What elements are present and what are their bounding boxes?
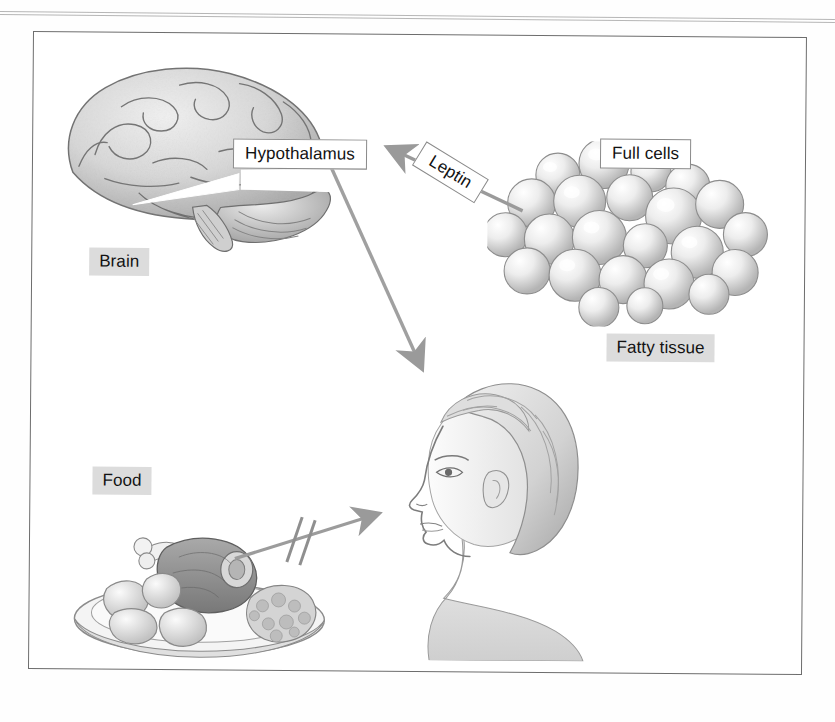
label-full-cells: Full cells [600, 138, 691, 169]
label-brain: Brain [89, 247, 149, 275]
figure-canvas: Hypothalamus Leptin Full cells Fatty tis… [29, 32, 806, 674]
label-food: Food [92, 466, 151, 494]
scanned-page-background: Hypothalamus Leptin Full cells Fatty tis… [0, 0, 835, 722]
woman-profile-illustration [369, 360, 621, 662]
label-fatty-tissue: Fatty tissue [606, 334, 714, 363]
label-leptin: Leptin [412, 141, 489, 203]
food-illustration [54, 500, 345, 662]
figure-frame: Hypothalamus Leptin Full cells Fatty tis… [28, 31, 807, 675]
label-hypothalamus: Hypothalamus [233, 139, 367, 170]
